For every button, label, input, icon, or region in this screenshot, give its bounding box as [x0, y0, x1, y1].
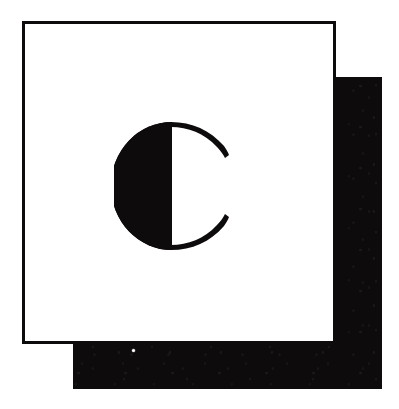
emblem-canvas: [0, 0, 399, 409]
letter-c-icon: [114, 119, 236, 253]
scan-artifact-speck: [132, 349, 135, 352]
letter-c-glyph: [114, 119, 236, 253]
